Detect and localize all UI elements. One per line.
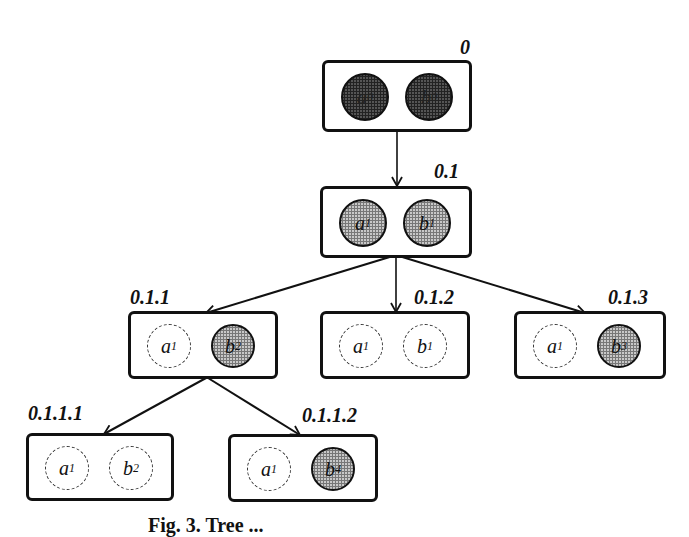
var-subscript: 1 xyxy=(365,216,371,231)
variable-circle-a1-inactive: a1 xyxy=(45,446,89,490)
var-name: a xyxy=(353,335,363,358)
var-subscript: 2 xyxy=(235,339,241,354)
variable-circle-a0: a0 xyxy=(341,73,389,121)
variable-circle-a1-inactive: a1 xyxy=(247,447,291,491)
variable-circle-b1-inactive: b1 xyxy=(403,324,447,368)
tree-node-0.1.3: a1 b3 xyxy=(514,311,666,379)
var-name: a xyxy=(59,457,69,480)
var-name: b xyxy=(419,212,429,235)
edge-0.1.1-to-0.1.1.1 xyxy=(104,378,206,434)
var-subscript: 3 xyxy=(621,339,627,354)
tree-node-0.1.1.2: a1 b4 xyxy=(228,434,378,502)
figure-caption: Fig. 3. Tree ... xyxy=(148,514,264,537)
var-name: b xyxy=(325,458,335,481)
var-name: a xyxy=(261,458,271,481)
node-label-0.1.1: 0.1.1 xyxy=(130,286,170,309)
var-name: b xyxy=(225,335,235,358)
tree-node-0: a0 b0 xyxy=(322,60,472,132)
tree-node-0.1.1.1: a1 b2 xyxy=(26,433,174,501)
variable-circle-a1-inactive: a1 xyxy=(533,324,577,368)
var-subscript: 0 xyxy=(367,90,373,105)
variable-circle-b4: b4 xyxy=(311,447,355,491)
var-name: b xyxy=(123,457,133,480)
var-name: b xyxy=(421,86,431,109)
variable-circle-a1: a1 xyxy=(339,199,387,247)
var-subscript: 1 xyxy=(557,339,563,354)
variable-circle-b3: b3 xyxy=(597,324,641,368)
node-label-0.1.2: 0.1.2 xyxy=(414,286,454,309)
var-name: a xyxy=(547,335,557,358)
var-subscript: 0 xyxy=(431,90,437,105)
tree-node-0.1.2: a1 b1 xyxy=(320,311,470,379)
var-name: a xyxy=(357,86,367,109)
variable-circle-b2-inactive: b2 xyxy=(109,446,153,490)
var-name: b xyxy=(417,335,427,358)
var-subscript: 1 xyxy=(427,339,433,354)
node-label-0.1: 0.1 xyxy=(434,160,459,183)
node-label-0.1.1.2: 0.1.1.2 xyxy=(302,404,357,427)
variable-circle-b0: b0 xyxy=(405,73,453,121)
tree-node-0.1: a1 b1 xyxy=(320,186,472,258)
tree-node-0.1.1: a1 b2 xyxy=(128,311,278,379)
var-subscript: 1 xyxy=(363,339,369,354)
var-name: b xyxy=(611,335,621,358)
var-name: a xyxy=(161,335,171,358)
node-label-0.1.3: 0.1.3 xyxy=(608,286,648,309)
var-subscript: 1 xyxy=(171,339,177,354)
node-label-0.1.1.1: 0.1.1.1 xyxy=(28,402,83,425)
var-subscript: 2 xyxy=(133,461,139,476)
node-label-0: 0 xyxy=(460,36,470,59)
variable-circle-a1-inactive: a1 xyxy=(339,324,383,368)
var-subscript: 4 xyxy=(335,462,341,477)
edge-0.1-to-0.1.1 xyxy=(206,256,393,313)
variable-circle-b1: b1 xyxy=(403,199,451,247)
variable-circle-a1-inactive: a1 xyxy=(147,324,191,368)
var-name: a xyxy=(355,212,365,235)
var-subscript: 1 xyxy=(429,216,435,231)
var-subscript: 1 xyxy=(69,461,75,476)
variable-circle-b2: b2 xyxy=(211,324,255,368)
var-subscript: 1 xyxy=(271,462,277,477)
edge-0.1.1-to-0.1.1.2 xyxy=(208,378,300,435)
